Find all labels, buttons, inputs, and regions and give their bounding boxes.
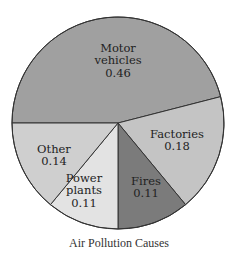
slice-label-other: Other0.14 <box>37 142 71 169</box>
pie-chart: Motorvehicles0.46Factories0.18Fires0.11P… <box>0 0 238 235</box>
slice-label-fires: Fires0.11 <box>131 174 161 201</box>
chart-caption: Air Pollution Causes <box>0 236 238 251</box>
